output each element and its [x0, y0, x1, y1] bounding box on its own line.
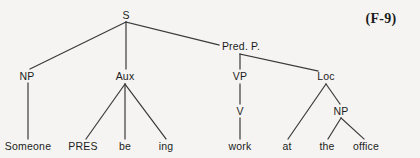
tree-leaf-pres: PRES — [68, 141, 97, 152]
tree-leaf-work: work — [229, 141, 252, 152]
tree-leaf-the: the — [319, 141, 334, 152]
tree-leaf-office: office — [353, 141, 379, 152]
tree-node-loc: Loc — [317, 71, 335, 82]
tree-node-vp: VP — [233, 71, 247, 82]
tree-node-np1: NP — [20, 71, 35, 82]
tree-node-aux: Aux — [116, 71, 135, 82]
tree-leaf-at: at — [282, 141, 291, 152]
figure-label: (F-9) — [365, 11, 396, 27]
tree-node-v: V — [236, 106, 243, 117]
tree-node-s: S — [122, 10, 129, 21]
tree-node-predp: Pred. P. — [222, 41, 260, 52]
syntax-tree-figure: SNPAuxPred. P.VPLocVNPSomeonePRESbeingwo… — [0, 0, 420, 158]
tree-leaf-ing: ing — [159, 141, 174, 152]
tree-leaf-someone: Someone — [5, 141, 51, 152]
tree-nodes: SNPAuxPred. P.VPLocVNPSomeonePRESbeingwo… — [0, 0, 420, 158]
tree-node-np2: NP — [334, 106, 349, 117]
tree-leaf-be: be — [119, 141, 131, 152]
